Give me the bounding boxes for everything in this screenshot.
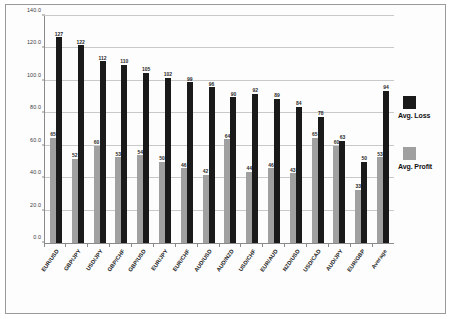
- bar-value-label: 46: [268, 162, 274, 168]
- plot-canvas: 0.020.040.060.080.0100.0120.0140.0 65127…: [44, 16, 394, 244]
- bar-group: 5394: [372, 16, 394, 243]
- bar-value-label: 60: [94, 139, 100, 145]
- x-axis-tick-label: GBP/CHF: [106, 248, 126, 273]
- bar-value-label: 60: [334, 139, 340, 145]
- bar-loss: 92: [252, 94, 258, 243]
- chart-screenshot: 0.020.040.060.080.0100.0120.0140.0 65127…: [0, 0, 452, 319]
- x-axis-label-cell: Average: [372, 248, 394, 312]
- bar-group: 52122: [67, 16, 89, 243]
- bar-value-label: 63: [340, 134, 346, 140]
- bar-value-label: 94: [383, 84, 389, 90]
- bar-value-label: 52: [72, 152, 78, 158]
- y-axis-tick-label: 40.0: [30, 169, 41, 175]
- bar-loss: 94: [383, 91, 389, 243]
- x-axis-label-cell: GBP/JPY: [66, 248, 88, 312]
- bar-group: 6063: [329, 16, 351, 243]
- x-axis-tick-label: AUD/JPY: [325, 248, 344, 272]
- x-axis-tick-label: USD/JPY: [85, 248, 104, 272]
- legend-entry: Avg. Profit: [398, 147, 446, 170]
- bar-group: 50102: [154, 16, 176, 243]
- bar-loss: 99: [187, 82, 193, 243]
- bar-value-label: 96: [209, 81, 215, 87]
- bar-value-label: 50: [159, 155, 165, 161]
- y-axis-tick-label: 60.0: [30, 137, 41, 143]
- bar-group: 60112: [89, 16, 111, 243]
- x-axis-label-cell: USD/JPY: [88, 248, 110, 312]
- x-axis-label-cell: GBP/USD: [132, 248, 154, 312]
- x-axis-label-cell: EUR/GBP: [350, 248, 372, 312]
- bar-loss: 78: [318, 117, 324, 243]
- bar-group: 54105: [132, 16, 154, 243]
- x-axis-label-cell: EUR/CHF: [175, 248, 197, 312]
- x-axis-tick-label: EUR/USD: [40, 248, 60, 273]
- bar-value-label: 105: [142, 66, 150, 72]
- bar-group: 6490: [220, 16, 242, 243]
- bar-group: 6578: [307, 16, 329, 243]
- bar-value-label: 53: [116, 151, 122, 157]
- bar-loss: 105: [143, 73, 149, 243]
- bar-value-label: 50: [362, 155, 368, 161]
- bar-value-label: 112: [98, 55, 106, 61]
- bar-loss: 90: [230, 97, 236, 243]
- bar-loss: 96: [209, 87, 215, 243]
- bar-group: 53110: [110, 16, 132, 243]
- bar-group: 4699: [176, 16, 198, 243]
- bar-group: 4689: [263, 16, 285, 243]
- bar-loss: 102: [165, 78, 171, 243]
- chart-legend: Avg. LossAvg. Profit: [398, 96, 446, 198]
- legend-swatch-loss: [403, 96, 416, 109]
- y-axis-tick-label: 80.0: [30, 104, 41, 110]
- y-axis-tick-label: 20.0: [30, 202, 41, 208]
- bar-loss: 112: [100, 61, 106, 243]
- x-axis-label-cell: USD/CAD: [307, 248, 329, 312]
- bar-loss: 89: [274, 99, 280, 243]
- x-axis-labels: EUR/USDGBP/JPYUSD/JPYGBP/CHFGBP/USDEUR/J…: [44, 248, 394, 312]
- x-axis-label-cell: USD/CHF: [241, 248, 263, 312]
- legend-entry: Avg. Loss: [398, 96, 446, 119]
- bar-loss: 122: [78, 45, 84, 243]
- bar-loss: 50: [361, 162, 367, 243]
- x-axis-tick-label: Average: [370, 248, 388, 270]
- x-axis-label-cell: EUR/AUD: [263, 248, 285, 312]
- bar-value-label: 110: [120, 58, 128, 64]
- bar-value-label: 78: [318, 110, 324, 116]
- bar-group: 4296: [198, 16, 220, 243]
- bar-value-label: 46: [181, 162, 187, 168]
- bar-value-label: 127: [55, 31, 63, 37]
- bar-value-label: 84: [296, 100, 302, 106]
- bar-value-label: 122: [77, 39, 85, 45]
- bar-value-label: 64: [225, 133, 231, 139]
- bar-value-label: 43: [290, 167, 296, 173]
- bar-loss: 63: [339, 141, 345, 243]
- bar-group: 3350: [350, 16, 372, 243]
- x-axis-tick-label: EUR/JPY: [150, 248, 169, 272]
- x-axis-tick-label: AUD/NZD: [215, 248, 235, 273]
- legend-swatch-profit: [403, 147, 416, 160]
- bar-value-label: 102: [164, 71, 172, 77]
- bar-group: 65127: [45, 16, 67, 243]
- legend-label: Avg. Loss: [398, 112, 446, 119]
- bar-value-label: 33: [356, 183, 362, 189]
- bar-loss: 127: [56, 37, 62, 243]
- x-axis-tick-label: GBP/JPY: [62, 248, 81, 272]
- y-axis-tick-label: 140.0: [27, 7, 41, 13]
- chart-plot-area: 0.020.040.060.080.0100.0120.0140.0 65127…: [44, 16, 394, 244]
- bar-series-container: 6512752122601125311054105501024699429664…: [45, 16, 394, 243]
- bar-loss: 84: [296, 107, 302, 243]
- y-axis-tick-label: 100.0: [27, 72, 41, 78]
- x-axis-tick-label: NZD/USD: [281, 248, 301, 272]
- bar-value-label: 65: [50, 131, 56, 137]
- x-axis-label-cell: EUR/USD: [44, 248, 66, 312]
- x-axis-label-cell: GBP/CHF: [110, 248, 132, 312]
- x-axis-label-cell: AUD/JPY: [328, 248, 350, 312]
- x-axis-label-cell: AUD/USD: [197, 248, 219, 312]
- bar-value-label: 99: [187, 76, 193, 82]
- x-axis-tick-label: USD/CHF: [237, 248, 257, 272]
- bar-group: 4384: [285, 16, 307, 243]
- x-axis-label-cell: EUR/JPY: [153, 248, 175, 312]
- y-axis-tick-label: 120.0: [27, 39, 41, 45]
- x-axis-label-cell: AUD/NZD: [219, 248, 241, 312]
- bar-value-label: 92: [252, 87, 258, 93]
- bar-value-label: 42: [203, 168, 209, 174]
- bar-group: 4492: [241, 16, 263, 243]
